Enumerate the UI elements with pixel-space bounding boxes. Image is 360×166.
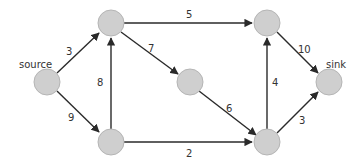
capacity-label: 5 <box>186 9 192 20</box>
source-label: source <box>19 59 52 70</box>
node-a <box>98 10 124 36</box>
flow-network-diagram: 3 9 8 5 7 6 2 4 10 3 source sink <box>0 0 360 166</box>
capacity-label: 10 <box>298 44 311 55</box>
capacity-label: 9 <box>68 112 74 123</box>
node-source <box>34 69 60 95</box>
sink-label: sink <box>326 59 346 70</box>
node-e <box>254 129 280 155</box>
capacity-label: 4 <box>272 77 278 88</box>
edge-e-sink <box>277 92 318 133</box>
capacity-label: 3 <box>66 46 72 57</box>
edge-source-a <box>57 33 99 73</box>
edge-source-b <box>57 91 99 132</box>
capacity-label: 8 <box>97 77 103 88</box>
capacity-label: 6 <box>226 103 232 114</box>
capacity-label: 7 <box>148 43 154 54</box>
node-sink <box>316 69 342 95</box>
capacity-label: 3 <box>299 115 305 126</box>
node-c <box>177 69 203 95</box>
node-d <box>254 10 280 36</box>
capacity-label: 2 <box>186 148 192 159</box>
node-b <box>98 129 124 155</box>
